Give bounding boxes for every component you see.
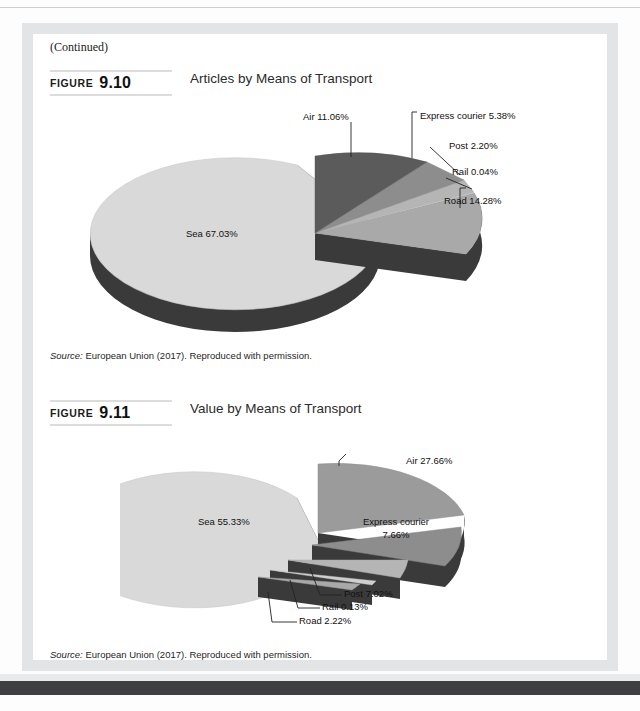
label-express-courier-2: Express courier: [352, 516, 440, 527]
label-post-2: Post 7.02%: [344, 588, 393, 599]
label-express-courier-1: Express courier 5.38%: [420, 110, 516, 121]
figure-rule-bottom: [50, 424, 172, 426]
pie-chart-articles: [60, 100, 560, 340]
label-air-1: Air 11.06%: [303, 111, 349, 122]
bottom-bar: [0, 681, 640, 695]
page-top-hairline: [0, 7, 640, 8]
figure-rule-bottom: [50, 94, 172, 96]
label-air-2: Air 27.66%: [406, 455, 452, 466]
figure-number: 9.10: [99, 74, 131, 91]
figure-rule-top: [50, 70, 172, 72]
source-prefix: Source:: [50, 649, 83, 660]
label-rail-1: Rail 0.04%: [452, 166, 498, 177]
label-road-1: Road 14.28%: [444, 195, 502, 206]
source-line-9-11: Source: European Union (2017). Reproduce…: [50, 649, 312, 660]
source-text: European Union (2017). Reproduced with p…: [83, 649, 312, 660]
label-road-2: Road 2.22%: [299, 615, 351, 626]
figure-title: Value by Means of Transport: [190, 401, 362, 416]
figure-header-9-10: FIGURE9.10 Articles by Means of Transpor…: [50, 70, 470, 96]
figure-rule-top: [50, 400, 172, 402]
figure-title: Articles by Means of Transport: [190, 71, 372, 86]
label-sea-2: Sea 55.33%: [198, 516, 250, 527]
figure-word: FIGURE: [50, 77, 93, 89]
continued-note: (Continued): [50, 40, 108, 55]
figure-header-9-11: FIGURE9.11 Value by Means of Transport: [50, 400, 470, 426]
figure-tag: FIGURE9.11: [50, 403, 172, 423]
label-rail-2: Rail 0.13%: [322, 601, 368, 612]
pie-chart-articles-svg: [60, 100, 560, 340]
label-post-1: Post 2.20%: [449, 140, 498, 151]
label-sea-1: Sea 67.03%: [186, 228, 238, 239]
figure-word: FIGURE: [50, 407, 93, 419]
source-line-9-10: Source: European Union (2017). Reproduce…: [50, 350, 312, 361]
page-background: (Continued) FIGURE9.10 Articles by Means…: [0, 0, 640, 711]
bottom-bar-highlight: [0, 674, 640, 681]
label-express-courier-2-value: 7.66%: [352, 529, 440, 540]
figure-tag: FIGURE9.10: [50, 73, 172, 93]
source-prefix: Source:: [50, 350, 83, 361]
source-text: European Union (2017). Reproduced with p…: [83, 350, 312, 361]
figure-number: 9.11: [99, 404, 130, 421]
